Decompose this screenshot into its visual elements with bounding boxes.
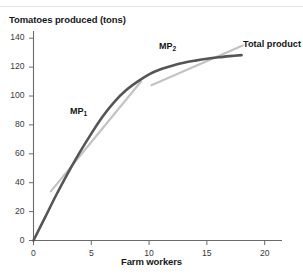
series-label-mp2: MP2 [159, 41, 176, 51]
series-layer [34, 45, 243, 240]
y-tick-label: 100 [1, 90, 25, 100]
chart-figure: Tomatoes produced (tons) 020406080100120… [0, 0, 303, 274]
y-axis-ticks [29, 38, 34, 240]
series-line-mp2-tangent [151, 45, 242, 85]
y-tick-label: 60 [1, 148, 25, 158]
y-tick-label: 140 [1, 32, 25, 42]
y-tick-label: 40 [1, 177, 25, 187]
x-axis-ticks [34, 241, 265, 246]
y-tick-label: 120 [1, 61, 25, 71]
series-label-mp1: MP1 [70, 106, 87, 116]
axis-lines [33, 31, 282, 241]
y-tick-label: 20 [1, 206, 25, 216]
y-tick-label: 0 [1, 235, 25, 245]
series-label-total-product: Total product [243, 39, 301, 49]
series-line-total-product [34, 55, 242, 240]
x-axis-title: Farm workers [0, 256, 303, 267]
y-tick-label: 80 [1, 119, 25, 129]
series-line-mp1-tangent [51, 82, 141, 192]
